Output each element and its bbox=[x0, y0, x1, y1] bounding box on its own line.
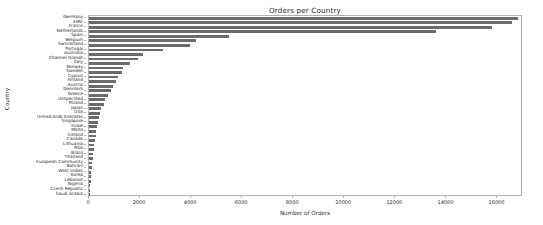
y-tick-mark bbox=[84, 162, 86, 163]
bar bbox=[89, 153, 93, 156]
bar bbox=[89, 71, 122, 74]
bar bbox=[89, 103, 104, 106]
y-tick-label: Saudi Arabia bbox=[56, 192, 83, 196]
y-tick-mark bbox=[84, 126, 86, 127]
y-tick-mark bbox=[84, 99, 86, 100]
y-tick-mark bbox=[84, 35, 86, 36]
bar bbox=[89, 171, 91, 174]
y-tick-mark bbox=[84, 63, 86, 64]
y-tick-mark bbox=[84, 103, 86, 104]
y-tick-mark bbox=[84, 53, 86, 54]
bar bbox=[89, 116, 99, 119]
y-tick-mark bbox=[84, 158, 86, 159]
x-tick-label: 4000 bbox=[184, 200, 197, 205]
bar bbox=[89, 80, 116, 83]
y-tick-mark bbox=[84, 117, 86, 118]
y-tick-mark bbox=[84, 171, 86, 172]
bar bbox=[89, 130, 96, 133]
bar bbox=[89, 125, 97, 128]
bar bbox=[89, 35, 229, 38]
y-tick-mark bbox=[84, 31, 86, 32]
bar bbox=[89, 180, 91, 183]
bar-series bbox=[89, 16, 521, 195]
y-tick-mark bbox=[84, 167, 86, 168]
y-axis-tick-labels: GermanyEIREFranceNetherlandsSpainBelgium… bbox=[0, 15, 86, 196]
bar bbox=[89, 89, 111, 92]
bar bbox=[89, 121, 98, 124]
x-tick-label: 16000 bbox=[489, 200, 505, 205]
bar bbox=[89, 139, 95, 142]
bar bbox=[89, 17, 518, 20]
y-tick-mark bbox=[84, 194, 86, 195]
y-tick-mark bbox=[84, 153, 86, 154]
x-tick-label: 0 bbox=[86, 200, 89, 205]
y-tick-mark bbox=[84, 85, 86, 86]
bar bbox=[89, 49, 163, 52]
bar bbox=[89, 107, 101, 110]
bar bbox=[89, 148, 94, 151]
x-axis-tick-labels: 0200040006000800010000120001400016000 bbox=[88, 196, 522, 210]
y-tick-mark bbox=[84, 49, 86, 50]
x-tick-label: 12000 bbox=[386, 200, 402, 205]
bar bbox=[89, 135, 96, 138]
x-tick-label: 10000 bbox=[335, 200, 351, 205]
bar bbox=[89, 67, 123, 70]
x-tick-label: 14000 bbox=[437, 200, 453, 205]
y-tick-mark bbox=[84, 76, 86, 77]
y-tick-mark bbox=[84, 148, 86, 149]
y-tick-mark bbox=[84, 108, 86, 109]
bar bbox=[89, 166, 92, 169]
y-tick-mark bbox=[84, 94, 86, 95]
y-tick-mark bbox=[84, 58, 86, 59]
bar bbox=[89, 21, 512, 24]
y-tick-mark bbox=[84, 135, 86, 136]
bar bbox=[89, 162, 92, 165]
y-tick-mark bbox=[84, 112, 86, 113]
bar bbox=[89, 112, 100, 115]
bar bbox=[89, 94, 108, 97]
y-tick-mark bbox=[84, 26, 86, 27]
y-tick-mark bbox=[84, 90, 86, 91]
bar bbox=[89, 58, 138, 61]
bar bbox=[89, 53, 143, 56]
y-tick-mark bbox=[84, 139, 86, 140]
bar bbox=[89, 39, 196, 42]
y-tick-mark bbox=[84, 189, 86, 190]
x-tick-label: 2000 bbox=[133, 200, 146, 205]
bar bbox=[89, 76, 118, 79]
bar bbox=[89, 184, 90, 187]
bar bbox=[89, 175, 91, 178]
y-tick-mark bbox=[84, 180, 86, 181]
y-tick-mark bbox=[84, 130, 86, 131]
plot-area bbox=[88, 15, 522, 196]
bar-chart-figure: Orders per Country Country GermanyEIREFr… bbox=[0, 0, 543, 225]
bar bbox=[89, 62, 130, 65]
chart-title: Orders per Country bbox=[88, 6, 522, 15]
bar bbox=[89, 85, 113, 88]
bar bbox=[89, 44, 190, 47]
y-tick-mark bbox=[84, 81, 86, 82]
bar bbox=[89, 30, 436, 33]
x-tick-label: 8000 bbox=[286, 200, 299, 205]
y-tick-mark bbox=[84, 44, 86, 45]
y-tick-mark bbox=[84, 176, 86, 177]
y-tick-mark bbox=[84, 67, 86, 68]
y-tick-mark bbox=[84, 40, 86, 41]
x-tick-label: 6000 bbox=[235, 200, 248, 205]
y-tick-mark bbox=[84, 17, 86, 18]
bar bbox=[89, 189, 90, 192]
y-tick-mark bbox=[84, 185, 86, 186]
y-tick-mark bbox=[84, 72, 86, 73]
bar bbox=[89, 98, 105, 101]
bar bbox=[89, 157, 93, 160]
y-tick-mark bbox=[84, 144, 86, 145]
bar bbox=[89, 26, 492, 29]
x-axis-title: Number of Orders bbox=[88, 210, 522, 216]
bar bbox=[89, 144, 94, 147]
y-tick-mark bbox=[84, 22, 86, 23]
y-tick-mark bbox=[84, 121, 86, 122]
